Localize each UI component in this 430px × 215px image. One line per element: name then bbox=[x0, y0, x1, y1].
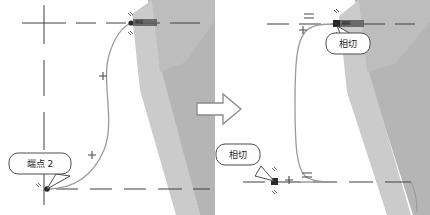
after-sketch-canvas: 相切 相切 相切 bbox=[215, 0, 430, 215]
plus-marker-bottom bbox=[285, 176, 293, 184]
plus-marker-top bbox=[299, 26, 307, 34]
plus-marker-low bbox=[88, 151, 96, 159]
tangent-callout-bottom[interactable]: 相切 bbox=[216, 144, 274, 181]
shaded-part-body bbox=[339, 0, 430, 215]
after-panel: 相切 相切 相切 bbox=[215, 0, 430, 215]
figure-root: 相切 端点 2 bbox=[0, 0, 430, 215]
before-sketch-canvas: 相切 端点 2 bbox=[0, 0, 215, 215]
relation-glyph-top-lower bbox=[128, 31, 133, 35]
tangent-callout-bottom-label: 相切 bbox=[229, 149, 247, 160]
tangent-callout-top-label: 相切 bbox=[339, 38, 357, 49]
relation-glyph-bottom-upper bbox=[272, 167, 277, 171]
endpoint-callout-label: 端点 2 bbox=[27, 158, 54, 169]
tangent-callout-bottom-tail bbox=[255, 166, 274, 181]
relation-glyph-top-upper bbox=[334, 9, 339, 13]
relation-tag-label-top: 相切 bbox=[342, 20, 350, 26]
relation-tag-label-top: 相切 bbox=[135, 19, 143, 25]
before-panel: 相切 端点 2 bbox=[0, 0, 215, 215]
relation-glyph-bottom-lower bbox=[272, 190, 277, 194]
control-point-markers bbox=[88, 72, 107, 159]
endpoint-dot-top[interactable] bbox=[128, 20, 133, 25]
equal-marker-top bbox=[304, 14, 314, 18]
relation-marker-group bbox=[285, 14, 314, 184]
relation-glyph-bottom-left bbox=[36, 183, 41, 187]
endpoint-callout[interactable]: 端点 2 bbox=[9, 153, 71, 189]
plus-marker-mid bbox=[99, 72, 107, 80]
